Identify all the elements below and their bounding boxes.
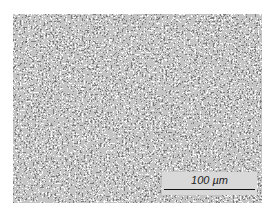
scale-bar: 100 µm (162, 172, 257, 195)
scale-bar-line (164, 189, 255, 190)
scale-bar-label: 100 µm (162, 174, 257, 186)
